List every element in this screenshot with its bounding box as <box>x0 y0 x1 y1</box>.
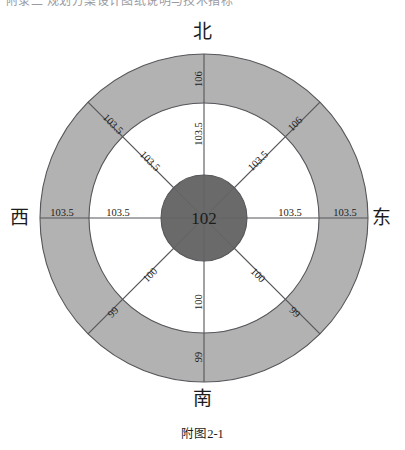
outer-value-west: 103.5 <box>50 207 74 218</box>
middle-value-west: 103.5 <box>106 207 130 218</box>
middle-value-south: 100 <box>193 294 204 310</box>
compass-label-south: 南 <box>0 389 405 408</box>
outer-value-north: 106 <box>193 71 204 87</box>
figure-caption: 附图2-1 <box>0 423 405 442</box>
concentric-ring-diagram: 102 106 103.5 106 103.5 103.5 103.5 99 1… <box>0 0 405 450</box>
center-value-label: 102 <box>191 209 217 228</box>
outer-value-east: 103.5 <box>333 207 357 218</box>
outer-value-south: 99 <box>193 352 204 363</box>
figure-container: 102 106 103.5 106 103.5 103.5 103.5 99 1… <box>0 0 405 450</box>
compass-label-west: 西 <box>10 208 29 227</box>
compass-label-east: 东 <box>372 208 391 227</box>
compass-label-north: 北 <box>0 22 405 41</box>
middle-value-east: 103.5 <box>278 207 302 218</box>
middle-value-north: 103.5 <box>193 122 204 146</box>
